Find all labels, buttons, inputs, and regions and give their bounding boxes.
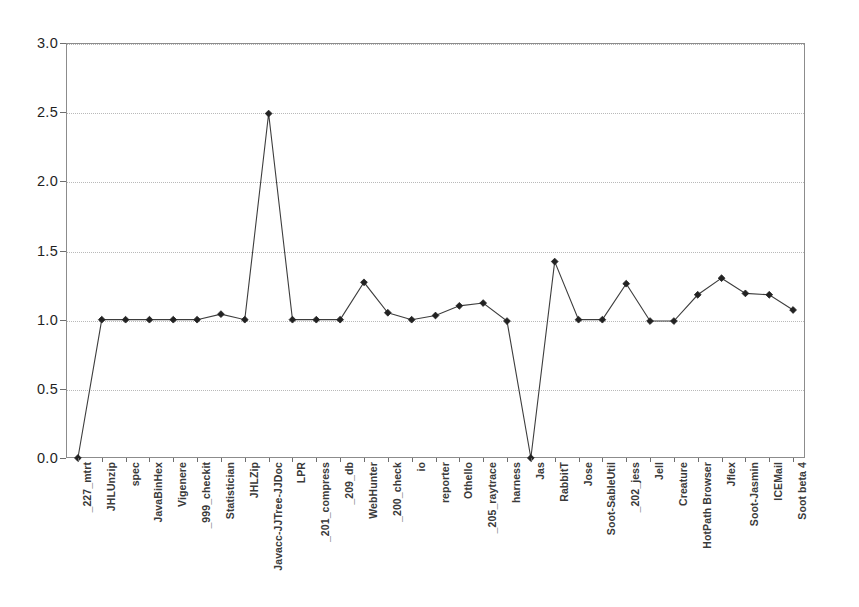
data-point-marker: [218, 311, 225, 318]
x-axis-tick-label-text: Statistician: [225, 462, 236, 519]
x-axis-tick-label-text: Othello: [463, 462, 474, 499]
y-axis-tick-label: 2.0: [6, 174, 58, 189]
x-axis-tick-label-text: Soot beta 4: [797, 462, 808, 520]
x-axis-tick-label-text: Jas: [535, 462, 546, 480]
x-axis-tick-label: WebHunter: [368, 462, 379, 519]
x-axis-tick-label: harness: [511, 462, 522, 503]
x-axis-tick-label: Jas: [535, 462, 546, 480]
x-axis-tick-label: _209_db: [344, 462, 355, 505]
x-axis-tick-label: _227_mtrt: [82, 462, 93, 513]
data-point-marker: [265, 110, 272, 117]
x-axis-tick-label: spec: [130, 462, 141, 486]
line-chart: 0.00.51.01.52.02.53.0 _227_mtrtJHLUnzips…: [0, 0, 859, 607]
x-axis-tick-label: Vigenere: [177, 462, 188, 507]
x-axis-tick-label-text: _999_checkit: [201, 462, 212, 529]
x-axis-tick-label-text: Jose: [583, 462, 594, 486]
x-axis-tick-label-text: io: [416, 462, 427, 472]
y-axis-tick-label: 3.0: [6, 36, 58, 51]
data-point-marker: [289, 316, 296, 323]
data-point-marker: [170, 316, 177, 323]
x-axis-tick-label: Soot-Jasmin: [749, 462, 760, 526]
x-axis-tick-label: Creature: [678, 462, 689, 506]
data-point-marker: [647, 318, 654, 325]
x-axis-tick-label: _999_checkit: [201, 462, 212, 529]
data-point-marker: [241, 316, 248, 323]
y-axis-tick-label: 0.5: [6, 382, 58, 397]
x-axis-tick-label: Jflex: [726, 462, 737, 486]
x-axis-tick-label: RabbitT: [559, 462, 570, 502]
x-axis-tick-label-text: _209_db: [344, 462, 355, 505]
x-axis-tick-label: Jell: [654, 462, 665, 480]
x-axis-tick-label: LPR: [296, 462, 307, 483]
data-series-line: [66, 43, 805, 458]
y-axis-tick-label: 0.0: [6, 451, 58, 466]
data-point-marker: [551, 258, 558, 265]
x-axis-tick-label-text: _200_check: [392, 462, 403, 522]
x-axis-tick-label-text: JavaBinHex: [153, 462, 164, 523]
x-axis-tick-label: JavaBinHex: [153, 462, 164, 523]
x-axis-tick-label-text: WebHunter: [368, 462, 379, 519]
x-axis-tick-label: Javacc-JJTree-JJDoc: [273, 462, 284, 571]
data-point-marker: [122, 316, 129, 323]
x-axis-tick-label-text: JHLUnzip: [106, 462, 117, 511]
x-axis-tick-label-text: HotPath Browser: [702, 462, 713, 549]
x-axis-tick-label-text: ICEMail: [773, 462, 784, 501]
x-axis-tick-label: _200_check: [392, 462, 403, 522]
data-point-marker: [718, 275, 725, 282]
data-point-marker: [408, 316, 415, 323]
x-axis-tick-label-text: Soot-SableUtil: [606, 462, 617, 535]
data-point-marker: [98, 316, 105, 323]
x-axis-tick-label-text: Vigenere: [177, 462, 188, 507]
x-axis-tick-label: _205_raytrace: [487, 462, 498, 533]
x-axis-tick-label-text: Soot-Jasmin: [749, 462, 760, 526]
data-point-marker: [766, 291, 773, 298]
x-axis-tick-label: Soot-SableUtil: [606, 462, 617, 535]
x-axis-tick-label-text: spec: [130, 462, 141, 486]
x-axis-tick-label: reporter: [440, 462, 451, 503]
x-axis-tick-label-text: _201_compress: [320, 462, 331, 542]
series-polyline: [78, 114, 793, 458]
data-point-marker: [623, 280, 630, 287]
x-axis-tick-label: JHLZip: [249, 462, 260, 498]
data-point-marker: [432, 312, 439, 319]
y-axis: 0.00.51.01.52.02.53.0: [0, 0, 58, 607]
data-point-marker: [337, 316, 344, 323]
data-point-marker: [742, 290, 749, 297]
data-point-marker: [194, 316, 201, 323]
x-axis-tick-label: Jose: [583, 462, 594, 486]
x-axis-tick-label-text: Creature: [678, 462, 689, 506]
x-axis-tick-label-text: LPR: [296, 462, 307, 483]
x-axis-tick-label: _202_jess: [630, 462, 641, 513]
data-point-marker: [146, 316, 153, 323]
data-point-marker: [599, 316, 606, 323]
x-axis-tick-label: ICEMail: [773, 462, 784, 501]
x-axis: _227_mtrtJHLUnzipspecJavaBinHexVigenere_…: [66, 462, 805, 602]
x-axis-tick-label: Othello: [463, 462, 474, 499]
x-axis-tick-label-text: RabbitT: [559, 462, 570, 502]
x-axis-tick-label-text: _205_raytrace: [487, 462, 498, 533]
y-axis-tick-label: 2.5: [6, 105, 58, 120]
x-axis-tick-label-text: Jell: [654, 462, 665, 480]
x-axis-tick-label-text: Javacc-JJTree-JJDoc: [273, 462, 284, 571]
x-axis-tick-label-text: _202_jess: [630, 462, 641, 513]
x-axis-tick-label: _201_compress: [320, 462, 331, 542]
x-axis-tick-label-text: JHLZip: [249, 462, 260, 498]
y-axis-tick-label: 1.0: [6, 313, 58, 328]
x-axis-tick-label-text: Jflex: [726, 462, 737, 486]
x-axis-tick-label-text: _227_mtrt: [82, 462, 93, 513]
x-axis-tick-label: HotPath Browser: [702, 462, 713, 549]
x-axis-tick-label: JHLUnzip: [106, 462, 117, 511]
data-point-marker: [456, 302, 463, 309]
x-axis-tick-label-text: reporter: [440, 462, 451, 503]
data-point-marker: [790, 307, 797, 314]
y-axis-tick-label: 1.5: [6, 244, 58, 259]
x-axis-tick-label: io: [416, 462, 427, 472]
x-axis-tick-label: Statistician: [225, 462, 236, 519]
data-point-marker: [575, 316, 582, 323]
x-axis-tick-label: Soot beta 4: [797, 462, 808, 520]
data-point-marker: [313, 316, 320, 323]
x-axis-tick-label-text: harness: [511, 462, 522, 503]
